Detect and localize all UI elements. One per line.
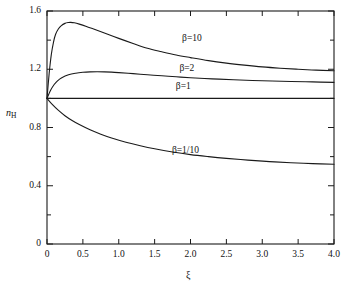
x-axis-title-symbol: ξ bbox=[186, 269, 190, 280]
x-tick-label: 1.0 bbox=[113, 250, 125, 260]
x-tick-label: 4.0 bbox=[328, 250, 340, 260]
x-tick-label: 3.0 bbox=[256, 250, 268, 260]
x-tick-label: 0.5 bbox=[77, 250, 89, 260]
curve-label-3: β=1/10 bbox=[172, 146, 199, 156]
chart-figure: 00.40.81.21.6 00.51.01.52.02.53.03.54.0 … bbox=[0, 0, 348, 290]
axes-border bbox=[47, 11, 334, 244]
axis-ticks bbox=[47, 11, 334, 244]
x-axis-title: ξ bbox=[186, 270, 190, 280]
y-axis-title: nH bbox=[6, 108, 16, 119]
x-tick-label: 2.0 bbox=[185, 250, 197, 260]
y-tick-label: 1.6 bbox=[8, 6, 41, 16]
y-tick-label: 0.4 bbox=[8, 181, 41, 191]
x-tick-label: 3.5 bbox=[292, 250, 304, 260]
curve-label-1: β=2 bbox=[179, 64, 194, 74]
y-tick-label: 0 bbox=[8, 239, 41, 249]
x-tick-label: 0 bbox=[45, 250, 50, 260]
x-tick-label: 2.5 bbox=[220, 250, 232, 260]
y-tick-label: 1.2 bbox=[8, 65, 41, 75]
y-tick-label: 0.8 bbox=[8, 123, 41, 133]
plot-frame bbox=[47, 11, 334, 244]
y-axis-title-subscript: H bbox=[11, 111, 16, 120]
curve-label-0: β=10 bbox=[182, 35, 202, 45]
x-tick-label: 1.5 bbox=[149, 250, 161, 260]
curve-label-2: β=1 bbox=[176, 83, 191, 93]
